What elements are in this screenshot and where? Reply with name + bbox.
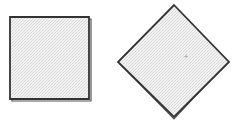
- square-body: [10, 17, 89, 99]
- center-mark: +: [183, 52, 188, 59]
- shapes-diagram: +: [0, 0, 236, 121]
- diamond-shape: +: [118, 5, 229, 119]
- square-shape: [10, 17, 91, 101]
- diamond-body: [118, 5, 229, 117]
